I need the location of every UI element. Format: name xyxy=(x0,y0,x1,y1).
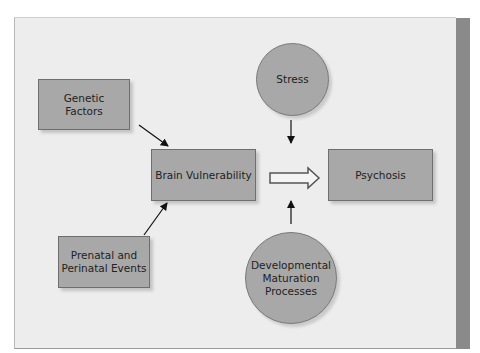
node-label: Developmental Maturation Processes xyxy=(251,259,331,298)
node-prenatal-perinatal-events: Prenatal and Perinatal Events xyxy=(58,236,150,288)
node-label: Brain Vulnerability xyxy=(155,169,252,182)
node-developmental-maturation: Developmental Maturation Processes xyxy=(245,232,337,324)
node-label: Psychosis xyxy=(355,169,406,182)
node-stress: Stress xyxy=(256,43,329,116)
node-label: Stress xyxy=(276,73,308,86)
side-strip xyxy=(456,18,470,349)
node-brain-vulnerability: Brain Vulnerability xyxy=(151,149,256,201)
node-genetic-factors: Genetic Factors xyxy=(38,79,130,130)
node-psychosis: Psychosis xyxy=(328,149,433,201)
node-label: Genetic Factors xyxy=(64,92,105,118)
node-label: Prenatal and Perinatal Events xyxy=(61,249,146,275)
